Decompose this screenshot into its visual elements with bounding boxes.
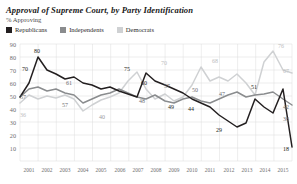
legend-item-democrats[interactable]: Democrats: [117, 26, 154, 33]
label-ind-50: 50: [192, 87, 198, 93]
horizontal-gridlines: [20, 44, 292, 161]
ytick-10: 10: [10, 145, 16, 152]
legend-item-republicans[interactable]: Republicans: [6, 26, 47, 33]
label-dem-42a: 36: [20, 112, 26, 118]
ytick-70: 70: [10, 67, 16, 74]
legend-swatch-independents: [60, 27, 66, 33]
label-rep-44: 44: [188, 106, 194, 112]
page-title: Approval of Supreme Court, by Party Iden…: [6, 5, 293, 15]
xtick-2001: 2001: [24, 167, 35, 173]
xtick-2011: 2011: [205, 167, 216, 173]
xtick-2015: 2015: [278, 167, 289, 173]
x-axis-tick-labels: 2001 2002 2003 2004 2005 2006 2007 2008 …: [24, 167, 289, 173]
y-axis-tick-labels: 90 80 70 60 50 40 30 20 10: [10, 41, 16, 152]
label-dem-76: 76: [278, 43, 284, 49]
label-ind-57a: 57: [20, 94, 26, 100]
label-rep-49: 49: [168, 104, 174, 110]
legend-swatch-democrats: [117, 27, 123, 33]
vertical-gridlines: [20, 44, 292, 161]
label-dem-68: 68: [212, 58, 218, 64]
ytick-60: 60: [10, 80, 16, 87]
label-rep-70: 70: [22, 66, 28, 72]
ytick-50: 50: [10, 93, 16, 100]
xtick-2004: 2004: [78, 167, 89, 173]
label-dem-40: 40: [99, 114, 105, 120]
ytick-20: 20: [10, 132, 16, 139]
xtick-2003: 2003: [60, 167, 71, 173]
legend-swatch-republicans: [6, 27, 12, 33]
legend-label-democrats: Democrats: [126, 26, 154, 33]
label-ind-48: 48: [139, 98, 145, 104]
label-rep-60: 60: [141, 80, 147, 86]
label-ind-57c: 57: [164, 83, 170, 89]
xtick-2008: 2008: [151, 167, 162, 173]
xtick-2013: 2013: [242, 167, 253, 173]
legend-label-independents: Independents: [69, 26, 104, 33]
label-dem-70: 70: [161, 60, 167, 66]
xtick-2002: 2002: [42, 167, 53, 173]
label-dem-36: 36: [283, 116, 289, 122]
label-rep-75: 75: [124, 66, 130, 72]
label-rep-18: 18: [283, 146, 289, 152]
label-rep-51: 51: [251, 84, 257, 90]
label-ind-42: 42: [283, 104, 289, 110]
series-republicans: [20, 57, 292, 147]
xtick-2006: 2006: [115, 167, 126, 173]
plot-area: 90 80 70 60 50 40 30 20 10 80 70: [0, 37, 297, 184]
chart-legend: Republicans Independents Democrats: [6, 26, 293, 33]
chart-card: Approval of Supreme Court, by Party Iden…: [0, 0, 297, 184]
legend-label-republicans: Republicans: [15, 26, 47, 33]
xtick-2009: 2009: [169, 167, 180, 173]
ytick-90: 90: [10, 41, 16, 48]
xtick-2014: 2014: [260, 167, 271, 173]
line-chart-svg: 90 80 70 60 50 40 30 20 10 80 70: [0, 37, 297, 184]
xtick-2005: 2005: [96, 167, 107, 173]
label-rep-80: 80: [34, 48, 40, 54]
ytick-30: 30: [10, 119, 16, 126]
label-dem-67: 67: [283, 68, 289, 74]
label-ind-57b: 57: [62, 102, 68, 108]
label-ind-61: 61: [66, 80, 72, 86]
xtick-2012: 2012: [224, 167, 235, 173]
ytick-80: 80: [10, 54, 16, 61]
chart-subtitle: % Approving: [6, 16, 293, 24]
label-ind-47: 47: [219, 91, 225, 97]
label-rep-29: 29: [216, 127, 222, 133]
ytick-40: 40: [10, 106, 16, 113]
xtick-2010: 2010: [187, 167, 198, 173]
xtick-2007: 2007: [133, 167, 144, 173]
legend-item-independents[interactable]: Independents: [60, 26, 104, 33]
